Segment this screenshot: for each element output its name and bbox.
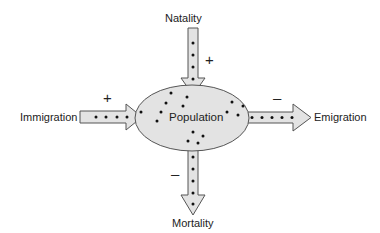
- mortality-sign: –: [171, 166, 179, 181]
- emigration-sign: –: [273, 90, 281, 105]
- population-label: Population: [169, 111, 223, 123]
- immigration-label: Immigration: [20, 111, 77, 123]
- immigration-sign: +: [103, 90, 112, 105]
- natality-label: Natality: [165, 12, 202, 24]
- natality-sign: +: [205, 52, 214, 67]
- mortality-arrow: [181, 147, 205, 215]
- emigration-label: Emigration: [314, 111, 367, 123]
- mortality-label: Mortality: [172, 217, 214, 229]
- emigration-arrow: [247, 104, 311, 131]
- immigration-arrow: [80, 104, 142, 130]
